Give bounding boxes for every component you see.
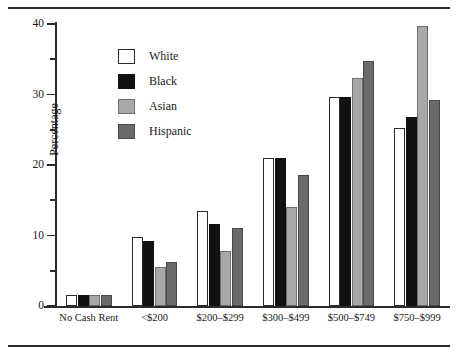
bar-asian — [89, 295, 100, 306]
x-axis-line — [44, 306, 450, 308]
bar-asian — [220, 251, 231, 306]
chart-figure: Percentage 010203040 No Cash Rent<$200$2… — [0, 0, 458, 360]
plot-area — [56, 24, 450, 306]
x-tick-label: No Cash Rent — [56, 312, 122, 324]
bar-asian — [155, 267, 166, 306]
bar-group — [394, 24, 440, 306]
white-swatch-icon — [118, 49, 135, 64]
x-tick-label: <$200 — [122, 312, 188, 324]
bottom-divider-rule — [8, 345, 450, 347]
x-tick-label: $200–$299 — [187, 312, 253, 324]
bar-black — [78, 295, 89, 306]
bar-group — [329, 24, 375, 306]
bar-white — [263, 158, 274, 306]
bar-white — [66, 295, 77, 306]
black-swatch-icon — [118, 74, 135, 89]
bar-hispanic — [101, 295, 112, 306]
bar-black — [209, 224, 220, 306]
bar-white — [394, 128, 405, 306]
y-tick-major — [47, 305, 56, 307]
bar-white — [132, 237, 143, 306]
y-tick-label: 20 — [4, 159, 44, 171]
legend-label: White — [149, 49, 178, 64]
hispanic-swatch-icon — [118, 124, 135, 139]
bar-hispanic — [232, 228, 243, 306]
bar-asian — [417, 26, 428, 306]
legend-item: Asian — [118, 94, 248, 119]
chart-legend: WhiteBlackAsianHispanic — [118, 44, 248, 144]
y-tick-major — [47, 23, 56, 25]
x-tick-label: $500–$749 — [319, 312, 385, 324]
bar-hispanic — [363, 61, 374, 306]
bar-black — [406, 117, 417, 306]
legend-label: Hispanic — [149, 124, 192, 139]
legend-label: Black — [149, 74, 177, 89]
bar-hispanic — [166, 262, 177, 306]
x-tick-label: $750–$999 — [384, 312, 450, 324]
y-tick-major — [47, 235, 56, 237]
y-tick-major — [47, 164, 56, 166]
bar-asian — [352, 78, 363, 306]
bar-group — [263, 24, 309, 306]
x-tick-label: $300–$499 — [253, 312, 319, 324]
asian-swatch-icon — [118, 99, 135, 114]
bar-hispanic — [298, 175, 309, 306]
bar-white — [197, 211, 208, 306]
bar-black — [275, 158, 286, 306]
y-tick-label: 0 — [4, 300, 44, 312]
y-tick-label: 40 — [4, 18, 44, 30]
legend-label: Asian — [149, 99, 177, 114]
legend-item: White — [118, 44, 248, 69]
y-tick-label: 10 — [4, 230, 44, 242]
legend-item: Black — [118, 69, 248, 94]
bar-group — [66, 24, 112, 306]
top-divider-rule — [8, 7, 450, 9]
bar-asian — [286, 207, 297, 306]
y-tick-label: 30 — [4, 89, 44, 101]
legend-item: Hispanic — [118, 119, 248, 144]
bar-white — [329, 97, 340, 306]
bar-hispanic — [429, 100, 440, 306]
bar-black — [143, 241, 154, 306]
bar-black — [340, 97, 351, 306]
y-tick-major — [47, 94, 56, 96]
